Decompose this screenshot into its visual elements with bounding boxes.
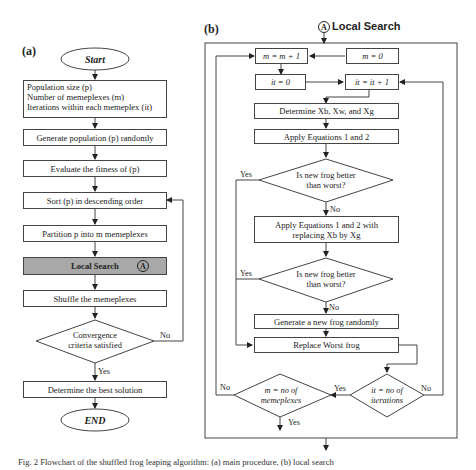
decision-m-line2: memeplexes	[245, 396, 317, 406]
decision-new-frog-better-1: Is new frog better than worst?	[276, 171, 376, 191]
convergence-decision: Convergence criteria satisfied	[55, 331, 135, 351]
generate-new-frog-box: Generate a new frog randomly	[254, 314, 399, 329]
evaluate-fitness-box: Evaluate the fitness of (p)	[23, 160, 167, 177]
decision-it-line1: it = no of	[357, 386, 417, 396]
figure-caption: Fig. 2 Flowchart of the shuffled frog le…	[18, 457, 334, 467]
convergence-no-label: No	[160, 331, 170, 340]
decision1-yes-label: Yes	[240, 170, 252, 179]
decision-memeplexes: m = no of memeplexes	[245, 386, 317, 406]
decision-it-no-label: No	[421, 384, 431, 393]
decision-it-line2: iterations	[357, 396, 417, 406]
decision2-line1: Is new frog better	[276, 270, 376, 280]
determine-xb-xw-xg-box: Determine Xb, Xw, and Xg	[254, 103, 399, 119]
best-solution-box: Determine the best solution	[23, 381, 167, 398]
panel-b-label: (b)	[204, 22, 219, 37]
apply2-line2: replacing Xb by Xg	[292, 230, 360, 240]
convergence-yes-label: Yes	[98, 367, 110, 376]
parameters-box: Population size (p) Number of memeplexes…	[23, 80, 167, 118]
param-memeplexes: Number of memeplexes (m)	[27, 92, 124, 102]
local-search-label: Local Search	[71, 261, 119, 271]
decision1-no-label: No	[330, 205, 340, 214]
start-terminal: Start	[61, 48, 129, 70]
convergence-line1: Convergence	[55, 331, 135, 341]
end-terminal: END	[61, 409, 129, 431]
m-increment-box: m = m + 1	[255, 48, 308, 64]
decision-it-yes-label: Yes	[334, 384, 346, 393]
generate-population-box: Generate population (p) randomly	[23, 129, 167, 146]
decision1-line1: Is new frog better	[276, 171, 376, 181]
it-increment-box: it = it + 1	[345, 74, 399, 90]
convergence-line2: criteria satisfied	[55, 341, 135, 351]
apply2-line1: Apply Equations 1 and 2 with	[275, 220, 378, 230]
m-init-box: m = 0	[346, 48, 399, 64]
replace-worst-frog-box: Replace Worst frog	[254, 337, 399, 353]
decision-m-no-label: No	[220, 383, 230, 392]
shuffle-box: Shuffle the memeplexes	[23, 290, 167, 307]
decision2-no-label: No	[329, 303, 339, 312]
sort-population-box: Sort (p) in descending order	[23, 192, 167, 209]
panel-a-label: (a)	[22, 44, 36, 59]
decision-new-frog-better-2: Is new frog better than worst?	[276, 270, 376, 290]
connector-a-marker: A	[137, 260, 149, 272]
it-init-box: it = 0	[255, 74, 306, 90]
partition-box: Partition p into m memeplexes	[23, 225, 167, 242]
apply-equations-replace-box: Apply Equations 1 and 2 with replacing X…	[254, 216, 399, 243]
apply-equations-box: Apply Equations 1 and 2	[254, 129, 399, 144]
header-a-marker: A	[318, 21, 330, 33]
decision-iterations: it = no of iterations	[357, 386, 417, 406]
local-search-header: Local Search	[332, 20, 400, 32]
decision2-yes-label: Yes	[240, 269, 252, 278]
decision1-line2: than worst?	[276, 181, 376, 191]
decision2-line2: than worst?	[276, 280, 376, 290]
decision-m-line1: m = no of	[245, 386, 317, 396]
param-iterations: Iterations within each memeplex (it)	[27, 102, 152, 112]
param-population-size: Population size (p)	[27, 82, 92, 92]
decision-m-yes-label: Yes	[288, 418, 300, 427]
